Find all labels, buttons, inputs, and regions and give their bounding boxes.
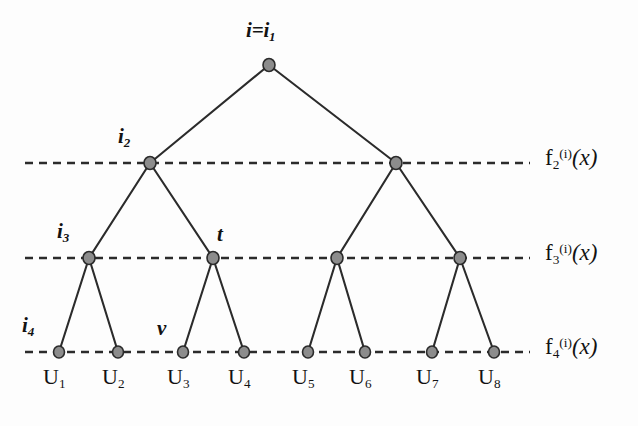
label-v: v (157, 318, 166, 339)
edge-l2b-left (337, 163, 396, 258)
label-f2-sup: (i) (559, 146, 572, 161)
edge-l3a-right (89, 258, 118, 352)
label-root-sub: 1 (269, 29, 275, 44)
edge-l3c-left (308, 258, 337, 352)
label-f2-f: f (545, 145, 553, 170)
tree-graphics (0, 0, 638, 426)
node-leaf-4 (239, 346, 250, 358)
label-leaf-2-base: U (102, 364, 118, 389)
label-t: t (217, 224, 223, 245)
label-i4: i4 (22, 315, 34, 338)
edge-l3b-left (183, 258, 213, 352)
edge-l3b-right (213, 258, 244, 352)
label-f2-arg: (x) (572, 145, 598, 170)
node-level2-right (390, 157, 402, 170)
node-leaf-5 (303, 346, 314, 358)
label-i2: i2 (118, 126, 130, 149)
label-f4-arg: (x) (572, 334, 598, 359)
label-leaf-8-base: U (478, 364, 494, 389)
edge-l3c-right (337, 258, 365, 352)
label-leaf-7: U7 (416, 366, 438, 390)
node-leaf-7 (427, 346, 438, 358)
label-leaf-2: U2 (102, 366, 124, 390)
node-leaf-1 (54, 346, 65, 358)
label-f3-arg: (x) (572, 240, 598, 265)
tree-diagram: i=i1 i2 i3 t i4 v f2(i)(x) f3(i)(x) f4(i… (0, 0, 638, 426)
label-root: i=i1 (246, 20, 275, 43)
label-f4-sup: (i) (559, 335, 572, 350)
label-leaf-6: U6 (349, 366, 371, 390)
node-leaf-3 (178, 346, 189, 358)
label-leaf-8-sub: 8 (494, 376, 501, 391)
label-leaf-8: U8 (478, 366, 500, 390)
node-leaf-8 (489, 346, 500, 358)
label-leaf-4-sub: 4 (244, 376, 251, 391)
node-i3 (83, 252, 95, 265)
edge-l2a-left (89, 163, 150, 258)
label-leaf-4-base: U (228, 364, 244, 389)
label-leaf-6-base: U (349, 364, 365, 389)
node-leaf-2 (113, 346, 124, 358)
label-leaf-3-sub: 3 (183, 376, 190, 391)
label-leaf-6-sub: 6 (365, 376, 372, 391)
node-level3-d (454, 252, 466, 265)
label-leaf-2-sub: 2 (118, 376, 125, 391)
edge-l2a-right (150, 163, 213, 258)
tree-edges (59, 65, 494, 352)
label-i4-sub: 4 (28, 324, 35, 339)
label-leaf-7-base: U (416, 364, 432, 389)
label-f4-f: f (545, 334, 553, 359)
label-leaf-5: U5 (292, 366, 314, 390)
node-root (263, 59, 275, 72)
label-leaf-7-sub: 7 (432, 376, 439, 391)
label-leaf-3-base: U (167, 364, 183, 389)
node-i2 (144, 157, 156, 170)
label-i2-sub: 2 (124, 135, 131, 150)
node-level3-c (331, 252, 343, 265)
label-i3-sub: 3 (63, 230, 70, 245)
label-leaf-5-base: U (292, 364, 308, 389)
edge-l3d-right (460, 258, 494, 352)
edge-root-left (150, 65, 269, 163)
edge-l3d-left (432, 258, 460, 352)
edge-root-right (269, 65, 396, 163)
label-leaf-1-base: U (43, 364, 59, 389)
label-root-equals: = (252, 18, 264, 42)
label-leaf-1: U1 (43, 366, 65, 390)
label-t-base: t (217, 222, 223, 246)
label-i3: i3 (57, 221, 69, 244)
node-t (207, 252, 219, 265)
label-f3-sup: (i) (559, 241, 572, 256)
label-f4: f4(i)(x) (545, 335, 597, 360)
label-f3-f: f (545, 240, 553, 265)
label-v-base: v (157, 316, 166, 340)
label-leaf-5-sub: 5 (308, 376, 315, 391)
edge-l2b-right (396, 163, 460, 258)
label-f3: f3(i)(x) (545, 241, 597, 266)
node-leaf-6 (360, 346, 371, 358)
label-leaf-1-sub: 1 (59, 376, 66, 391)
label-leaf-3: U3 (167, 366, 189, 390)
label-f2: f2(i)(x) (545, 146, 597, 171)
label-leaf-4: U4 (228, 366, 250, 390)
edge-l3a-left (59, 258, 89, 352)
